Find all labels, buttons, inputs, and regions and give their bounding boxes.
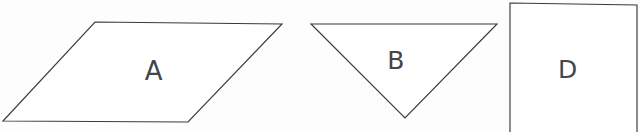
shape-label-d: D xyxy=(558,57,578,82)
shapes-drawing xyxy=(0,0,641,132)
shape-label-b: B xyxy=(387,48,405,73)
figure-canvas: A B D xyxy=(0,0,641,132)
parallelogram-shape-a xyxy=(3,22,282,122)
shape-label-a: A xyxy=(145,58,163,84)
